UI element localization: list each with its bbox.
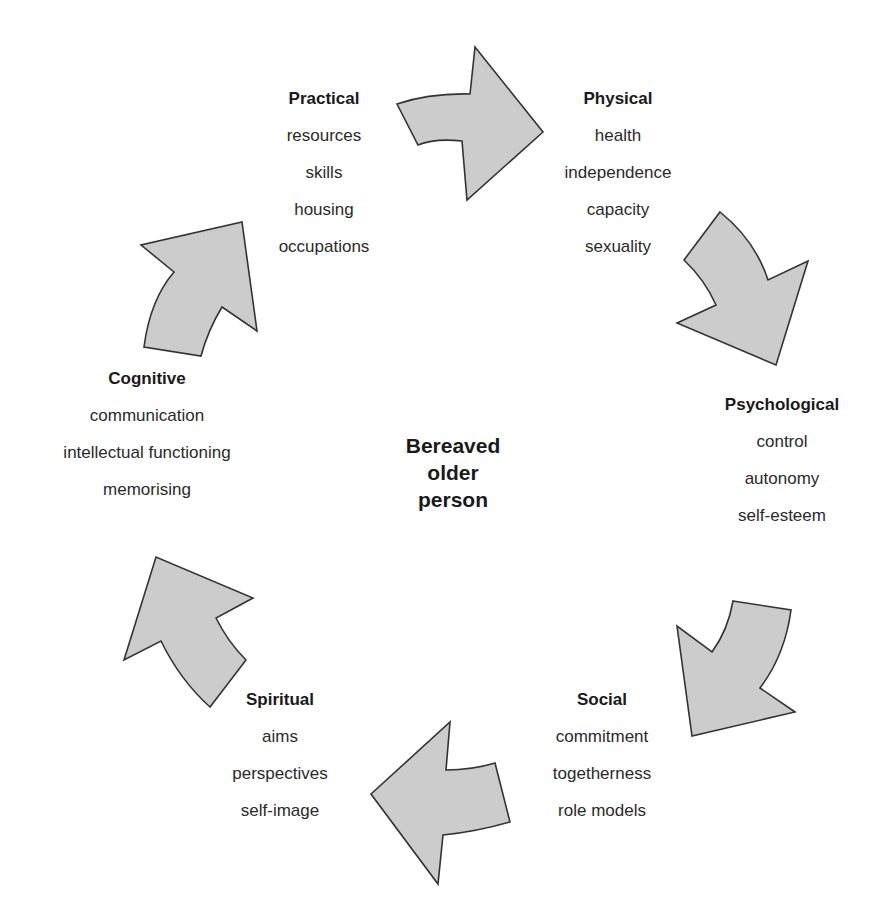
group-item: self-esteem [725, 506, 839, 526]
arrow-spiritual-to-cognitive [124, 557, 253, 707]
group-spiritual: Spiritual aims perspectives self-image [232, 690, 327, 838]
center-line-3: person [406, 486, 501, 513]
group-title: Psychological [725, 395, 839, 415]
group-item: capacity [565, 200, 672, 220]
group-item: togetherness [553, 764, 651, 784]
group-social: Social commitment togetherness role mode… [553, 690, 651, 838]
group-title: Cognitive [63, 369, 230, 389]
group-item: aims [232, 727, 327, 747]
arrow-psychological-to-social [677, 601, 795, 736]
group-item: health [565, 126, 672, 146]
group-item: skills [279, 163, 370, 183]
group-item: autonomy [725, 469, 839, 489]
group-item: perspectives [232, 764, 327, 784]
group-cognitive: Cognitive communication intellectual fun… [63, 369, 230, 517]
group-item: communication [63, 406, 230, 426]
arrow-practical-to-physical [397, 47, 543, 200]
group-item: occupations [279, 237, 370, 257]
center-label: Bereaved older person [406, 432, 501, 513]
group-physical: Physical health independence capacity se… [565, 89, 672, 274]
group-title: Physical [565, 89, 672, 109]
group-item: commitment [553, 727, 651, 747]
group-item: housing [279, 200, 370, 220]
group-title: Spiritual [232, 690, 327, 710]
group-item: sexuality [565, 237, 672, 257]
group-item: independence [565, 163, 672, 183]
center-line-1: Bereaved [406, 432, 501, 459]
group-item: self-image [232, 801, 327, 821]
group-item: resources [279, 126, 370, 146]
arrow-cognitive-to-practical [141, 222, 257, 356]
arrow-social-to-spiritual [371, 722, 510, 884]
group-item: intellectual functioning [63, 443, 230, 463]
group-psychological: Psychological control autonomy self-este… [725, 395, 839, 543]
center-line-2: older [406, 459, 501, 486]
group-item: control [725, 432, 839, 452]
group-title: Social [553, 690, 651, 710]
arrow-physical-to-psychological [677, 212, 808, 365]
group-practical: Practical resources skills housing occup… [279, 89, 370, 274]
group-item: role models [553, 801, 651, 821]
group-item: memorising [63, 480, 230, 500]
group-title: Practical [279, 89, 370, 109]
